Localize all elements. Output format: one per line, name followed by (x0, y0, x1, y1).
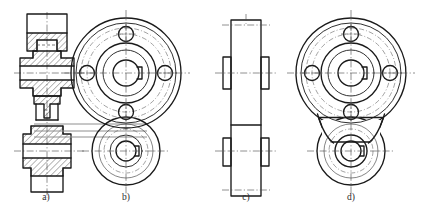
view-label-b: b) (122, 192, 130, 203)
engineering-drawing-canvas: a) b) c) d) (0, 0, 429, 216)
view-label-a: a) (42, 192, 49, 203)
view-label-d: d) (347, 192, 355, 203)
drawing-sheet: a) b) c) d) (0, 0, 429, 216)
view-label-c: c) (242, 192, 249, 203)
